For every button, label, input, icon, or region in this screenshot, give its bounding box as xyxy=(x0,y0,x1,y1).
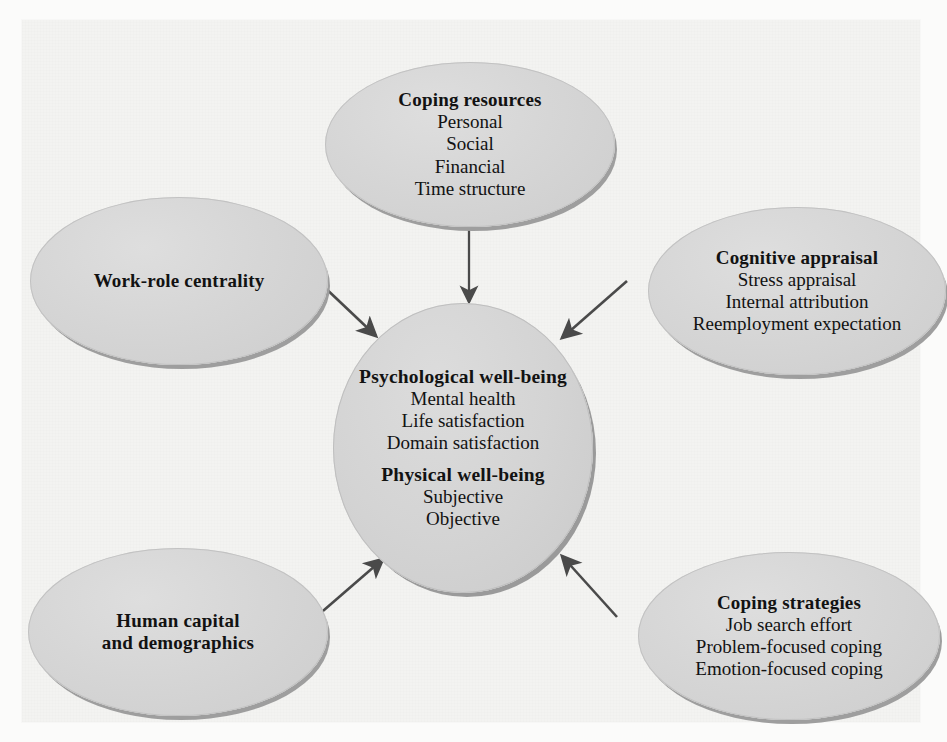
node-coping-resources[interactable]: Coping resources Personal Social Financi… xyxy=(325,62,615,227)
node-cognitive-appraisal-header: Cognitive appraisal xyxy=(716,247,878,269)
node-work-role-centrality-header: Work-role centrality xyxy=(94,270,265,292)
node-center-psych-line-2: Life satisfaction xyxy=(402,410,525,432)
node-coping-strategies-line-1: Job search effort xyxy=(726,614,852,636)
node-cognitive-appraisal-line-1: Stress appraisal xyxy=(738,269,857,291)
node-cognitive-appraisal-line-2: Internal attribution xyxy=(726,291,869,313)
node-center-psychological-header: Psychological well-being xyxy=(359,366,567,389)
node-coping-resources-line-4: Time structure xyxy=(415,178,526,200)
node-coping-resources-line-3: Financial xyxy=(435,156,506,178)
edge-cognitive-appraisal-to-center xyxy=(562,281,627,338)
node-coping-resources-line-2: Social xyxy=(446,133,494,155)
node-center-psych-line-3: Domain satisfaction xyxy=(387,432,540,454)
node-center-physical-header: Physical well-being xyxy=(381,464,545,487)
node-coping-resources-header: Coping resources xyxy=(398,89,541,111)
node-coping-strategies[interactable]: Coping strategies Job search effort Prob… xyxy=(638,552,940,720)
node-coping-strategies-line-2: Problem-focused coping xyxy=(696,636,882,658)
edge-work-role-to-center xyxy=(320,283,376,336)
node-center-phys-line-2: Objective xyxy=(426,508,500,530)
node-coping-strategies-header: Coping strategies xyxy=(717,592,861,614)
edge-coping-strategies-to-center xyxy=(562,556,617,617)
node-coping-strategies-line-3: Emotion-focused coping xyxy=(695,658,882,680)
diagram-canvas: Coping resources Personal Social Financi… xyxy=(0,0,947,742)
edge-human-capital-to-center xyxy=(316,559,383,617)
node-center-psych-line-1: Mental health xyxy=(411,388,516,410)
node-center-wellbeing[interactable]: Psychological well-being Mental health L… xyxy=(333,303,593,593)
node-human-capital[interactable]: Human capital and demographics xyxy=(28,548,328,716)
node-cognitive-appraisal-line-3: Reemployment expectation xyxy=(693,313,901,335)
node-cognitive-appraisal[interactable]: Cognitive appraisal Stress appraisal Int… xyxy=(648,207,946,375)
node-coping-resources-line-1: Personal xyxy=(437,111,502,133)
diagram-page: Coping resources Personal Social Financi… xyxy=(0,0,947,742)
node-center-phys-line-1: Subjective xyxy=(423,486,503,508)
node-human-capital-header: Human capital xyxy=(116,610,239,632)
node-work-role-centrality[interactable]: Work-role centrality xyxy=(30,197,328,365)
node-human-capital-header-2: and demographics xyxy=(102,632,254,654)
